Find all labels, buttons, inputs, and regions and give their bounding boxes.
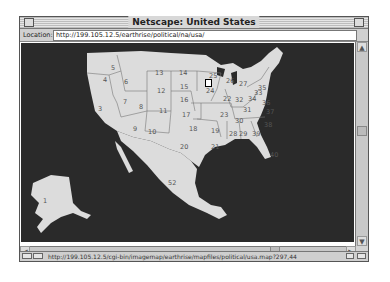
- state-label[interactable]: 21: [211, 144, 219, 151]
- state-label[interactable]: 39: [252, 131, 260, 138]
- title-bar[interactable]: Netscape: United States: [20, 17, 368, 29]
- state-label[interactable]: 16: [180, 97, 188, 104]
- state-label[interactable]: 3: [98, 106, 102, 113]
- status-bar: http://199.105.12.5/cgi-bin/imagemap/ear…: [20, 251, 368, 261]
- security-key-icon[interactable]: [22, 253, 32, 259]
- state-label[interactable]: 35: [258, 85, 266, 92]
- close-box[interactable]: [24, 18, 34, 27]
- window-title: Netscape: United States: [128, 16, 259, 28]
- state-label[interactable]: 36: [262, 100, 270, 107]
- state-label[interactable]: 29: [239, 131, 247, 138]
- state-label[interactable]: 22: [223, 96, 231, 103]
- page-content: 1345678910111213141516171819202122232425…: [20, 42, 356, 246]
- state-label[interactable]: 28: [229, 131, 237, 138]
- state-label[interactable]: 12: [157, 88, 165, 95]
- cursor-icon: [205, 79, 212, 87]
- location-input[interactable]: http://199.105.12.5/earthrise/political/…: [53, 30, 357, 41]
- state-label[interactable]: 15: [180, 84, 188, 91]
- state-label[interactable]: 11: [159, 108, 167, 115]
- vertical-scroll-thumb[interactable]: [357, 126, 367, 136]
- state-label[interactable]: 26: [226, 78, 234, 85]
- location-label: Location:: [23, 30, 53, 40]
- component-icon[interactable]: [346, 253, 354, 259]
- location-bar: Location: http://199.105.12.5/earthrise/…: [20, 29, 368, 42]
- state-label[interactable]: 27: [239, 81, 247, 88]
- state-label[interactable]: 13: [155, 70, 163, 77]
- state-label[interactable]: 40: [270, 152, 278, 159]
- state-label[interactable]: 8: [139, 104, 143, 111]
- state-label[interactable]: 10: [148, 129, 156, 136]
- state-label[interactable]: 9: [133, 126, 137, 133]
- state-label[interactable]: 14: [179, 70, 187, 77]
- state-label[interactable]: 18: [189, 126, 197, 133]
- state-label[interactable]: 37: [266, 109, 274, 116]
- state-label[interactable]: 19: [211, 128, 219, 135]
- state-label[interactable]: 20: [180, 144, 188, 151]
- state-label[interactable]: 32: [235, 97, 243, 104]
- scroll-up-arrow[interactable]: ▲: [357, 42, 367, 52]
- state-label[interactable]: 52: [168, 180, 176, 187]
- state-label[interactable]: 38: [264, 122, 272, 129]
- mail-icon[interactable]: [33, 253, 43, 259]
- state-label[interactable]: 7: [123, 99, 127, 106]
- scroll-down-arrow[interactable]: ▼: [357, 236, 367, 246]
- state-label[interactable]: 24: [206, 88, 214, 95]
- browser-window: Netscape: United States Location: http:/…: [19, 16, 369, 262]
- state-label[interactable]: 17: [182, 112, 190, 119]
- state-label[interactable]: 4: [103, 77, 107, 84]
- usa-imagemap[interactable]: 1345678910111213141516171819202122232425…: [21, 43, 354, 242]
- status-text: http://199.105.12.5/cgi-bin/imagemap/ear…: [48, 252, 297, 261]
- state-label[interactable]: 23: [220, 112, 228, 119]
- zoom-box[interactable]: [354, 18, 364, 27]
- vertical-scrollbar[interactable]: ▲ ▼: [355, 42, 368, 246]
- state-label[interactable]: 31: [243, 107, 251, 114]
- state-label[interactable]: 30: [235, 118, 243, 125]
- state-label[interactable]: 6: [124, 79, 128, 86]
- resize-grip-icon[interactable]: [357, 253, 366, 259]
- state-label[interactable]: 34: [248, 96, 256, 103]
- state-label[interactable]: 1: [43, 198, 47, 205]
- state-label[interactable]: 5: [111, 65, 115, 72]
